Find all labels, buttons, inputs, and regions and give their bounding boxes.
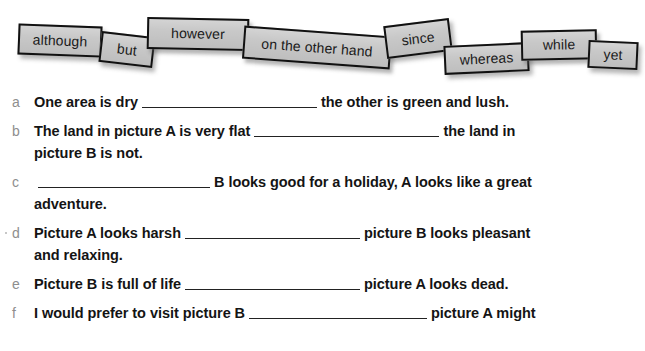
question-marker: f	[12, 303, 34, 323]
answer-blank-c[interactable]	[38, 174, 210, 188]
question-marker: a	[12, 92, 34, 112]
word-tile-on-the-other-hand[interactable]: on the other hand	[242, 26, 392, 70]
question-text-after: B looks good for a holiday, A looks like…	[214, 174, 532, 190]
question-text: One area is drythe other is green and lu…	[34, 92, 645, 112]
word-tile-bank: although but however on the other hand s…	[0, 0, 645, 88]
word-tile-while[interactable]: while	[521, 29, 598, 61]
answer-blank-f[interactable]	[249, 305, 427, 319]
question-text: Picture B is full of lifepicture A looks…	[34, 274, 645, 294]
word-tile-although[interactable]: although	[17, 23, 102, 57]
question-row-f: f I would prefer to visit picture Bpictu…	[0, 303, 645, 323]
question-row-e: e Picture B is full of lifepicture A loo…	[0, 274, 645, 294]
stray-dot-artifact	[5, 232, 7, 234]
answer-blank-e[interactable]	[185, 276, 360, 290]
question-marker: c	[12, 172, 34, 192]
question-text: The land in picture A is very flatthe la…	[34, 121, 645, 163]
question-marker: e	[12, 274, 34, 294]
answer-blank-d[interactable]	[185, 225, 360, 239]
question-marker: b	[12, 121, 34, 141]
question-text-after: the land in	[443, 123, 515, 139]
word-tile-since[interactable]: since	[383, 18, 453, 59]
word-tile-label: on the other hand	[261, 35, 373, 59]
word-tile-whereas[interactable]: whereas	[443, 42, 529, 75]
word-tile-label: yet	[603, 46, 623, 63]
question-list: a One area is drythe other is green and …	[0, 92, 645, 332]
question-text-before: The land in picture A is very flat	[34, 123, 250, 139]
word-tile-yet[interactable]: yet	[587, 40, 638, 70]
question-row-b: b The land in picture A is very flatthe …	[0, 121, 645, 163]
word-tile-label: however	[171, 25, 225, 42]
question-text-after: picture A looks dead.	[364, 276, 509, 292]
question-marker: d	[12, 223, 34, 243]
word-tile-label: although	[32, 31, 87, 49]
question-row-c: c B looks good for a holiday, A looks li…	[0, 172, 645, 214]
question-row-d: d Picture A looks harshpicture B looks p…	[0, 223, 645, 265]
word-tile-label: while	[543, 36, 576, 53]
question-text-line2: picture B is not.	[34, 143, 639, 163]
word-tile-label: whereas	[459, 49, 513, 67]
word-tile-label: since	[400, 28, 435, 48]
question-text-after: the other is green and lush.	[321, 94, 509, 110]
question-text-after: picture A might	[431, 305, 536, 321]
question-text-before: Picture A looks harsh	[34, 225, 181, 241]
question-row-a: a One area is drythe other is green and …	[0, 92, 645, 112]
question-text: Picture A looks harshpicture B looks ple…	[34, 223, 645, 265]
question-text: B looks good for a holiday, A looks like…	[34, 172, 645, 214]
question-text-after: picture B looks pleasant	[364, 225, 530, 241]
question-text: I would prefer to visit picture Bpicture…	[34, 303, 645, 323]
answer-blank-b[interactable]	[254, 123, 439, 137]
question-text-line2: adventure.	[34, 194, 639, 214]
question-text-before: I would prefer to visit picture B	[34, 305, 245, 321]
question-text-before: Picture B is full of life	[34, 276, 181, 292]
word-tile-however[interactable]: however	[147, 17, 250, 51]
word-tile-label: but	[116, 40, 137, 58]
answer-blank-a[interactable]	[142, 94, 317, 108]
question-text-line2: and relaxing.	[34, 245, 639, 265]
question-text-before: One area is dry	[34, 94, 138, 110]
